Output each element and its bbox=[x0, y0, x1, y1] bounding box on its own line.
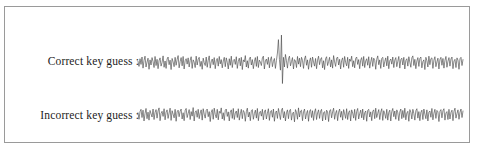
trace-row-correct-key-guess: Correct key guess : bbox=[5, 33, 471, 93]
waveform-correct-key-guess bbox=[138, 33, 463, 93]
figure-frame: Correct key guess : Incorrect key guess … bbox=[4, 6, 470, 143]
trace-label-incorrect-key-guess: Incorrect key guess : bbox=[5, 109, 139, 121]
waveform-icon-correct-key-guess bbox=[138, 33, 463, 93]
trace-row-incorrect-key-guess: Incorrect key guess : bbox=[5, 85, 471, 145]
waveform-incorrect-key-guess bbox=[138, 85, 463, 145]
waveform-icon-incorrect-key-guess bbox=[138, 85, 463, 145]
trace-label-correct-key-guess: Correct key guess : bbox=[5, 55, 139, 67]
correlation-figure: Correct key guess : Incorrect key guess … bbox=[0, 0, 481, 159]
